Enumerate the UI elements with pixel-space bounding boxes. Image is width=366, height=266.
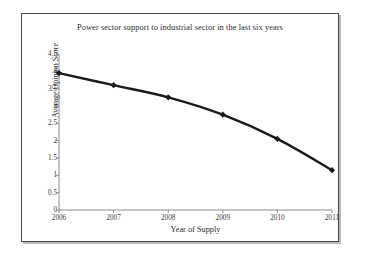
- chart-page: Power sector support to industrial secto…: [0, 0, 366, 266]
- x-axis-title: Year of Supply: [59, 225, 332, 234]
- y-tick-label: 1.5: [48, 154, 57, 162]
- x-tick-label: 2009: [216, 214, 230, 222]
- series-line: [59, 73, 332, 170]
- plot-area: [59, 54, 332, 210]
- data-markers-group: [56, 70, 335, 173]
- data-point-marker: [111, 82, 117, 88]
- y-tick-label: 0.5: [48, 189, 57, 197]
- x-tick-label: 2008: [161, 214, 175, 222]
- y-tick-label: 3.5: [48, 85, 57, 93]
- y-tick-label: 2.5: [48, 119, 57, 127]
- line-series-svg: [59, 54, 332, 210]
- chart-title: Power sector support to industrial secto…: [22, 23, 338, 32]
- data-point-marker: [165, 94, 171, 100]
- y-tick-label: 4.5: [48, 50, 57, 58]
- x-tick-label: 2010: [270, 214, 284, 222]
- data-series-group: [59, 73, 332, 170]
- x-tick-label: 2006: [52, 214, 66, 222]
- chart-frame: Power sector support to industrial secto…: [21, 13, 339, 242]
- x-tick-label: 2011: [325, 214, 339, 222]
- x-tick-label: 2007: [106, 214, 120, 222]
- data-point-marker: [220, 112, 226, 118]
- y-axis-tick-labels: 4.543.532.521.510.50: [38, 54, 57, 210]
- axes-group: [56, 54, 332, 213]
